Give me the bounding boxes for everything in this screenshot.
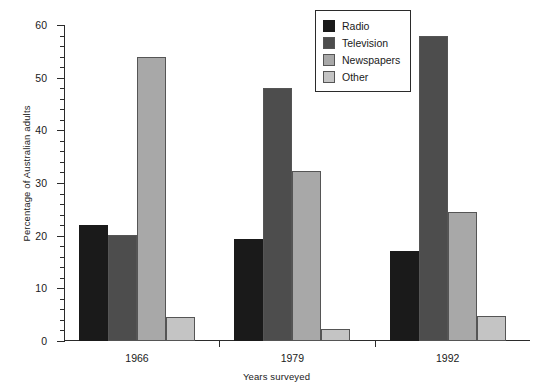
- y-tick-minor: [60, 320, 65, 321]
- y-tick-minor: [60, 88, 65, 89]
- bar: [390, 251, 419, 341]
- legend-swatch-icon: [323, 20, 335, 32]
- y-tick-major: 10: [57, 288, 65, 289]
- bar: [263, 88, 292, 341]
- plot-area: 0102030405060: [64, 25, 530, 341]
- legend-swatch-icon: [323, 37, 335, 49]
- y-tick-label: 40: [35, 124, 47, 136]
- y-tick-minor: [60, 151, 65, 152]
- legend-label: Radio: [342, 20, 369, 32]
- y-tick-minor: [60, 141, 65, 142]
- y-tick-major: 0: [57, 341, 65, 342]
- y-tick-minor: [60, 215, 65, 216]
- bar: [137, 57, 166, 341]
- y-tick-minor: [60, 204, 65, 205]
- bar: [166, 317, 195, 341]
- y-tick-minor: [60, 225, 65, 226]
- y-tick-minor: [60, 299, 65, 300]
- y-tick-label: 30: [35, 177, 47, 189]
- y-tick-label: 60: [35, 19, 47, 31]
- y-tick-minor: [60, 120, 65, 121]
- legend-item[interactable]: Radio: [323, 17, 400, 34]
- y-tick-label: 50: [35, 72, 47, 84]
- bar: [234, 239, 263, 341]
- bar: [79, 225, 108, 341]
- y-tick-label: 0: [41, 335, 47, 347]
- bar: [419, 36, 448, 341]
- y-tick-minor: [60, 57, 65, 58]
- y-tick-minor: [60, 267, 65, 268]
- legend-item[interactable]: Television: [323, 34, 400, 51]
- legend-label: Newspapers: [342, 54, 400, 66]
- x-tick-mark: [375, 340, 376, 347]
- x-tick-label: 1979: [281, 352, 304, 364]
- y-tick-major: 30: [57, 183, 65, 184]
- bar: [448, 212, 477, 341]
- y-tick-minor: [60, 36, 65, 37]
- y-tick-major: 60: [57, 25, 65, 26]
- legend: RadioTelevisionNewspapersOther: [315, 10, 411, 92]
- bar: [477, 316, 506, 341]
- x-tick-label: 1992: [436, 352, 459, 364]
- bar: [108, 235, 137, 341]
- y-tick-minor: [60, 246, 65, 247]
- bar: [321, 329, 350, 341]
- y-tick-minor: [60, 162, 65, 163]
- y-tick-minor: [60, 194, 65, 195]
- y-tick-minor: [60, 278, 65, 279]
- legend-label: Other: [342, 71, 368, 83]
- y-tick-minor: [60, 109, 65, 110]
- legend-swatch-icon: [323, 71, 335, 83]
- y-tick-label: 20: [35, 230, 47, 242]
- y-tick-minor: [60, 67, 65, 68]
- legend-swatch-icon: [323, 54, 335, 66]
- x-tick-mark: [219, 340, 220, 347]
- legend-label: Television: [342, 37, 388, 49]
- y-tick-major: 50: [57, 78, 65, 79]
- y-tick-minor: [60, 46, 65, 47]
- bar: [292, 171, 321, 341]
- y-tick-minor: [60, 99, 65, 100]
- legend-item[interactable]: Newspapers: [323, 51, 400, 68]
- y-tick-major: 20: [57, 236, 65, 237]
- y-tick-minor: [60, 257, 65, 258]
- y-tick-minor: [60, 172, 65, 173]
- y-tick-major: 40: [57, 130, 65, 131]
- x-axis-title: Years surveyed: [0, 371, 553, 382]
- bar-chart-figure: Percentage of Australian adults 01020304…: [0, 0, 553, 392]
- y-tick-minor: [60, 330, 65, 331]
- y-axis-title: Percentage of Australian adults: [21, 44, 32, 304]
- legend-item[interactable]: Other: [323, 68, 400, 85]
- y-tick-minor: [60, 309, 65, 310]
- y-tick-label: 10: [35, 282, 47, 294]
- x-tick-label: 1966: [125, 352, 148, 364]
